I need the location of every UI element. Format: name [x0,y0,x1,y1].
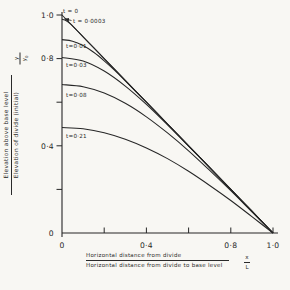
y-symbol-numerator: y [14,50,20,68]
curve-label-t=0.03: t=0·03 [66,62,87,68]
x-tick-label: 0·8 [224,241,237,250]
x-tick-label: 1·0 [267,241,280,250]
curve-t=0.03 [62,58,273,233]
x-symbol-fraction-bar [244,262,250,263]
y-tick-label: 0·8 [41,54,54,63]
y-symbol-denominator: y0 [21,50,29,68]
x-axis-caption-fraction-bar [86,260,229,261]
y-tick-label: 1·0 [41,11,54,20]
figure-canvas: 1·00·80·4000·40·81·0t = 0t = 0·0003t=0·0… [0,0,290,290]
y-tick-label: 0 [49,229,54,238]
y-tick-label: 0·4 [41,142,54,151]
y-axis-caption: Elevation above base level Elevation of … [3,69,29,201]
x-over-l-symbol: x L [242,254,252,271]
curve-label-t=0.01: t=0·01 [66,43,87,49]
y-axis-caption-denominator: Elevation of divide (initial) [13,69,20,201]
x-symbol-numerator: x [242,254,252,261]
x-axis-caption-denominator: Horizontal distance from divide to base … [86,262,229,269]
x-axis-caption: Horizontal distance from divide Horizont… [86,252,229,269]
curve-t=0.21 [62,127,273,233]
y-axis-caption-numerator: Elevation above base level [3,69,10,201]
y-over-y0-symbol: y y0 [14,50,27,68]
x-tick-label: 0·4 [140,241,153,250]
x-axis-caption-numerator: Horizontal distance from divide [86,252,229,259]
curve-label-t=0.0003: t = 0·0003 [73,18,106,24]
y-axis-caption-fraction-bar [11,75,12,195]
x-symbol-denominator: L [242,264,252,271]
plot-svg: 1·00·80·4000·40·81·0t = 0t = 0·0003t=0·0… [0,0,290,290]
curve-t=0.01 [62,40,273,233]
curve-label-t=0: t = 0 [63,8,78,14]
curve-label-t=0.08: t=0·08 [66,92,87,98]
x-tick-label: 0 [59,241,64,250]
curve-label-t=0.21: t=0·21 [66,133,87,139]
